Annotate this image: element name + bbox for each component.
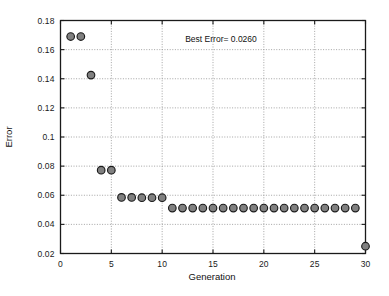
data-point-marker bbox=[97, 166, 105, 174]
y-tick-label: 0.06 bbox=[8, 190, 55, 200]
data-point-marker bbox=[250, 204, 258, 212]
data-point-marker bbox=[179, 204, 187, 212]
x-axis-title: Generation bbox=[188, 271, 235, 282]
data-point-marker bbox=[209, 204, 217, 212]
x-tick-label: 25 bbox=[310, 259, 320, 269]
data-point-marker bbox=[67, 33, 75, 41]
y-tick-label: 0.02 bbox=[8, 249, 55, 259]
x-tick-label: 5 bbox=[109, 259, 114, 269]
data-point-marker bbox=[158, 194, 166, 202]
data-point-marker bbox=[301, 204, 309, 212]
data-point-marker bbox=[240, 204, 248, 212]
data-point-marker bbox=[321, 204, 329, 212]
y-tick-label: 0.08 bbox=[8, 161, 55, 171]
y-tick-label: 0.16 bbox=[8, 45, 55, 55]
data-point-marker bbox=[270, 204, 278, 212]
data-point-marker bbox=[118, 194, 126, 202]
data-point-marker bbox=[341, 204, 349, 212]
data-point-marker bbox=[169, 204, 177, 212]
data-points-group bbox=[67, 33, 369, 250]
data-point-marker bbox=[331, 204, 339, 212]
data-point-marker bbox=[87, 71, 95, 79]
y-tick-label: 0.14 bbox=[8, 74, 55, 84]
y-tick-label: 0.18 bbox=[8, 16, 55, 26]
x-tick-label: 15 bbox=[208, 259, 218, 269]
gridlines-group bbox=[61, 21, 366, 254]
x-tick-label: 30 bbox=[361, 259, 371, 269]
data-point-marker bbox=[138, 194, 146, 202]
data-point-marker bbox=[219, 204, 227, 212]
data-point-marker bbox=[189, 204, 197, 212]
data-point-marker bbox=[128, 194, 136, 202]
x-tick-label: 20 bbox=[259, 259, 269, 269]
data-point-marker bbox=[362, 242, 370, 250]
x-tick-label: 10 bbox=[157, 259, 167, 269]
y-tick-label: 0.12 bbox=[8, 103, 55, 113]
data-point-marker bbox=[352, 204, 360, 212]
y-axis-title: Error bbox=[3, 117, 14, 157]
y-tick-label: 0.04 bbox=[8, 219, 55, 229]
data-point-marker bbox=[260, 204, 268, 212]
data-point-marker bbox=[291, 204, 299, 212]
plot-canvas bbox=[0, 0, 389, 296]
chart-figure: 0.020.040.060.080.10.120.140.160.18 0510… bbox=[0, 0, 389, 296]
y-tick-label: 0.1 bbox=[8, 132, 55, 142]
data-point-marker bbox=[280, 204, 288, 212]
x-tick-label: 0 bbox=[58, 259, 63, 269]
data-point-marker bbox=[311, 204, 319, 212]
data-point-marker bbox=[199, 204, 207, 212]
data-point-marker bbox=[230, 204, 238, 212]
data-point-marker bbox=[148, 194, 156, 202]
best-error-annotation: Best Error= 0.0260 bbox=[185, 34, 257, 44]
data-point-marker bbox=[77, 33, 85, 41]
data-point-marker bbox=[108, 166, 116, 174]
